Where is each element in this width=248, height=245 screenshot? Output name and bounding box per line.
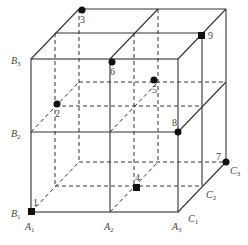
cube-grid-diagram: 1 2 3 4 5 6 7 8 9 B3 B2 B1 A1 A2 A3 C1 C… bbox=[0, 0, 248, 245]
label-B1: B1 bbox=[11, 208, 21, 221]
point-8: 8 bbox=[172, 117, 182, 136]
svg-text:8: 8 bbox=[172, 117, 177, 128]
label-B2: B2 bbox=[11, 128, 21, 141]
svg-text:6: 6 bbox=[110, 66, 115, 77]
label-A1: A1 bbox=[24, 221, 35, 234]
svg-text:5: 5 bbox=[152, 84, 157, 95]
svg-text:9: 9 bbox=[208, 30, 213, 41]
svg-text:7: 7 bbox=[216, 151, 221, 162]
points: 1 2 3 4 5 6 7 8 9 bbox=[28, 7, 230, 216]
label-A3: A3 bbox=[171, 221, 182, 234]
label-C3: C3 bbox=[230, 165, 241, 178]
point-3: 3 bbox=[79, 7, 86, 26]
point-7: 7 bbox=[216, 151, 230, 166]
point-4: 4 bbox=[133, 172, 140, 191]
point-2: 2 bbox=[54, 101, 61, 120]
label-B3: B3 bbox=[11, 55, 21, 68]
point-6: 6 bbox=[109, 59, 116, 78]
svg-text:2: 2 bbox=[55, 108, 60, 119]
label-C1: C1 bbox=[188, 213, 199, 226]
point-9: 9 bbox=[198, 30, 213, 41]
label-C2: C2 bbox=[206, 189, 217, 202]
svg-text:1: 1 bbox=[33, 197, 38, 208]
label-A2: A2 bbox=[103, 221, 114, 234]
svg-text:3: 3 bbox=[80, 14, 85, 25]
svg-text:4: 4 bbox=[135, 172, 140, 183]
point-5: 5 bbox=[151, 77, 158, 96]
cube-grid-svg: 1 2 3 4 5 6 7 8 9 B3 B2 B1 A1 A2 A3 C1 C… bbox=[0, 0, 248, 245]
